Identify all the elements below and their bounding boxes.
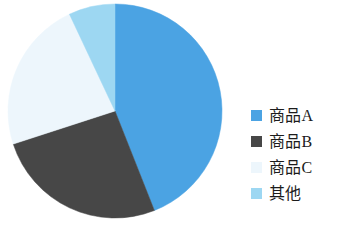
legend-label-shouhin-c: 商品C bbox=[269, 159, 312, 177]
legend-item-shouhin-a[interactable]: 商品A bbox=[251, 104, 347, 127]
pie-svg bbox=[0, 0, 240, 225]
legend-swatch-shouhin-a bbox=[251, 110, 262, 121]
pie-plot-area bbox=[0, 0, 240, 225]
legend-label-shouhin-b: 商品B bbox=[269, 133, 312, 151]
legend-swatch-shouhin-b bbox=[251, 136, 262, 147]
legend-label-sonota: 其他 bbox=[269, 185, 301, 203]
pie-slice-group bbox=[8, 4, 222, 218]
legend-swatch-sonota bbox=[251, 188, 262, 199]
legend-item-sonota[interactable]: 其他 bbox=[251, 182, 347, 205]
chart-legend: 商品A 商品B 商品C 其他 bbox=[251, 104, 347, 205]
legend-swatch-shouhin-c bbox=[251, 162, 262, 173]
legend-label-shouhin-a: 商品A bbox=[269, 107, 313, 125]
pie-chart-figure: 商品A 商品B 商品C 其他 bbox=[0, 0, 347, 225]
legend-item-shouhin-c[interactable]: 商品C bbox=[251, 156, 347, 179]
legend-item-shouhin-b[interactable]: 商品B bbox=[251, 130, 347, 153]
